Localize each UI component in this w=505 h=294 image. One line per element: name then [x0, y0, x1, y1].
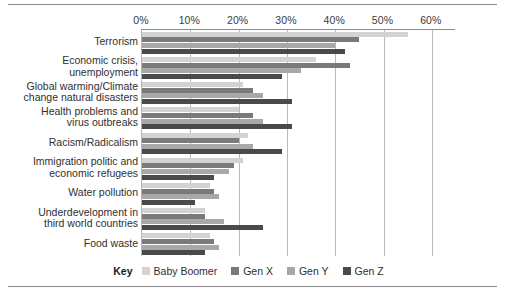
bar-gen-x: [142, 239, 214, 244]
legend-item-gen-z[interactable]: Gen Z: [343, 265, 384, 277]
bar-gen-z: [142, 49, 345, 54]
legend-item-gen-x[interactable]: Gen X: [231, 265, 273, 277]
bar-group: [142, 232, 455, 257]
bar-gen-z: [142, 99, 292, 104]
legend-item-label: Baby Boomer: [154, 265, 218, 277]
x-tick-label-0: 0%: [133, 14, 148, 26]
bar-gen-y: [142, 219, 224, 224]
legend-item-label: Gen Y: [299, 265, 329, 277]
legend-item-label: Gen X: [243, 265, 273, 277]
bar-gen-x: [142, 138, 239, 143]
bar-gen-y: [142, 119, 263, 124]
bar-gen-y: [142, 43, 335, 48]
y-axis-category-labels: TerrorismEconomic crisis, unemploymentGl…: [0, 29, 138, 256]
bar-gen-x: [142, 63, 350, 68]
x-tick-label-4: 40%: [324, 14, 345, 26]
plot-area: [141, 29, 455, 256]
bar-gen-y: [142, 169, 229, 174]
bar-baby-boomer: [142, 107, 239, 112]
legend-item-gen-y[interactable]: Gen Y: [287, 265, 329, 277]
bar-baby-boomer: [142, 133, 248, 138]
category-label-1: Economic crisis, unemployment: [1, 55, 138, 78]
x-tick-label-2: 20%: [227, 14, 248, 26]
category-label-8: Food waste: [1, 238, 138, 250]
legend-item-label: Gen Z: [355, 265, 384, 277]
bar-gen-y: [142, 68, 301, 73]
bar-gen-y: [142, 93, 263, 98]
legend-key-label: Key: [113, 265, 132, 277]
bar-group: [142, 131, 455, 156]
bar-baby-boomer: [142, 208, 205, 213]
bar-baby-boomer: [142, 82, 243, 87]
x-tick-label-5: 50%: [372, 14, 393, 26]
bar-gen-x: [142, 113, 253, 118]
bar-gen-x: [142, 163, 234, 168]
bar-gen-y: [142, 194, 219, 199]
category-label-3: Health problems and virus outbreaks: [1, 106, 138, 129]
category-label-0: Terrorism: [1, 36, 138, 48]
bar-group: [142, 156, 455, 181]
bar-gen-z: [142, 124, 292, 129]
legend-item-baby-boomer[interactable]: Baby Boomer: [142, 265, 218, 277]
chart-legend: Key Baby BoomerGen XGen YGen Z: [0, 262, 505, 280]
bar-gen-x: [142, 88, 253, 93]
category-label-4: Racism/Radicalism: [1, 137, 138, 149]
bar-baby-boomer: [142, 158, 243, 163]
legend-swatch-icon: [142, 267, 150, 275]
grouped-bar-chart: 0%10%20%30%40%50%60% TerrorismEconomic c…: [0, 0, 505, 294]
bar-gen-y: [142, 245, 219, 250]
x-tick-label-6: 60%: [420, 14, 441, 26]
bar-group: [142, 106, 455, 131]
bar-group: [142, 207, 455, 232]
bar-group: [142, 181, 455, 206]
bar-gen-x: [142, 214, 205, 219]
bar-gen-z: [142, 149, 282, 154]
bottom-divider-rule: [8, 286, 497, 287]
bar-gen-z: [142, 74, 282, 79]
bar-gen-x: [142, 189, 214, 194]
x-tick-label-3: 30%: [275, 14, 296, 26]
bar-baby-boomer: [142, 183, 210, 188]
top-divider-rule: [8, 4, 497, 5]
bar-baby-boomer: [142, 32, 408, 37]
category-label-5: Immigration politic and economic refugee…: [1, 156, 138, 179]
x-tick-label-1: 10%: [179, 14, 200, 26]
legend-swatch-icon: [287, 267, 295, 275]
category-label-6: Water pollution: [1, 187, 138, 199]
category-label-2: Global warming/Climate change natural di…: [1, 81, 138, 104]
x-axis-tick-labels: 0%10%20%30%40%50%60%: [0, 14, 505, 28]
bar-gen-z: [142, 250, 205, 255]
bar-gen-z: [142, 225, 263, 230]
category-label-7: Underdevelopment in third world countrie…: [1, 207, 138, 230]
bar-baby-boomer: [142, 57, 316, 62]
legend-swatch-icon: [343, 267, 351, 275]
bar-gen-x: [142, 37, 359, 42]
bar-gen-z: [142, 175, 214, 180]
legend-swatch-icon: [231, 267, 239, 275]
bar-group: [142, 55, 455, 80]
bar-gen-z: [142, 200, 195, 205]
bar-gen-y: [142, 144, 253, 149]
bar-group: [142, 80, 455, 105]
bar-group: [142, 30, 455, 55]
bar-baby-boomer: [142, 233, 210, 238]
